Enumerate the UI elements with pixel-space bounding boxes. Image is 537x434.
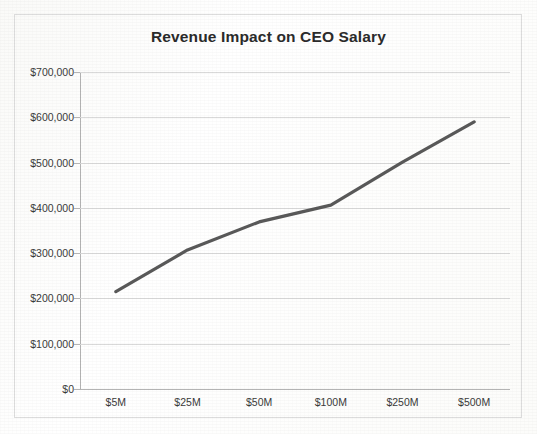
y-axis-tick-label: $500,000 — [2, 157, 74, 169]
chart-page: Revenue Impact on CEO Salary $0$100,000$… — [0, 0, 537, 434]
x-axis-tick-label: $25M — [174, 396, 200, 408]
y-axis-tick-label: $400,000 — [2, 202, 74, 214]
y-tick-200000 — [74, 298, 80, 299]
gridline-y-700000 — [80, 72, 510, 73]
gridline-y-0 — [80, 389, 510, 390]
y-axis-tick-label: $300,000 — [2, 247, 74, 259]
y-axis-tick-label: $600,000 — [2, 111, 74, 123]
y-tick-500000 — [74, 163, 80, 164]
gridline-y-500000 — [80, 163, 510, 164]
x-axis-tick-label: $500M — [458, 396, 490, 408]
y-tick-400000 — [74, 208, 80, 209]
x-axis-tick-label: $5M — [106, 396, 126, 408]
gridline-y-600000 — [80, 117, 510, 118]
x-axis-tick-label: $100M — [315, 396, 347, 408]
gridline-y-400000 — [80, 208, 510, 209]
gridline-y-100000 — [80, 344, 510, 345]
y-tick-100000 — [74, 344, 80, 345]
x-axis-labels: $5M$25M$50M$100M$250M$500M — [0, 396, 537, 414]
y-axis-labels: $0$100,000$200,000$300,000$400,000$500,0… — [0, 0, 74, 434]
y-axis-tick-label: $200,000 — [2, 292, 74, 304]
y-tick-700000 — [74, 72, 80, 73]
y-tick-300000 — [74, 253, 80, 254]
x-axis-tick-label: $50M — [246, 396, 272, 408]
y-axis-tick-label: $100,000 — [2, 338, 74, 350]
gridline-y-300000 — [80, 253, 510, 254]
x-axis-tick-label: $250M — [386, 396, 418, 408]
y-tick-600000 — [74, 117, 80, 118]
y-axis-tick-label: $0 — [2, 383, 74, 395]
y-axis-tick-label: $700,000 — [2, 66, 74, 78]
y-tick-0 — [74, 389, 80, 390]
plot-area — [80, 72, 510, 389]
gridline-y-200000 — [80, 298, 510, 299]
chart-title: Revenue Impact on CEO Salary — [0, 28, 537, 46]
